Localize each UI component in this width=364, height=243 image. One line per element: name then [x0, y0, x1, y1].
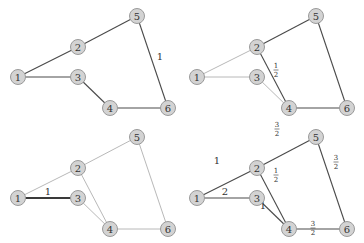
svg-text:6: 6: [344, 224, 350, 235]
svg-text:1: 1: [194, 193, 200, 204]
node-2: 2: [250, 161, 265, 176]
node-5: 5: [130, 9, 145, 24]
node-4: 4: [282, 101, 297, 116]
svg-text:6: 6: [165, 224, 171, 235]
edge-1-2: [18, 47, 78, 77]
edge-5-6: [137, 16, 168, 108]
edge-5-6: [316, 137, 347, 229]
svg-text:5: 5: [134, 11, 140, 22]
edge-2-5: [257, 137, 316, 168]
edge-weight-fraction: 12: [274, 62, 279, 79]
svg-text:4: 4: [286, 103, 292, 114]
node-3: 3: [71, 70, 86, 85]
svg-text:1: 1: [274, 62, 278, 70]
svg-text:2: 2: [334, 163, 338, 171]
edge-5-6: [316, 16, 347, 108]
node-3: 3: [250, 70, 265, 85]
svg-text:5: 5: [313, 11, 319, 22]
svg-text:4: 4: [107, 224, 113, 235]
svg-text:6: 6: [344, 103, 350, 114]
svg-text:3: 3: [311, 220, 315, 228]
edge-weight-fraction: 32: [311, 220, 316, 237]
edge-weight-label: 1: [45, 186, 51, 197]
svg-text:1: 1: [194, 72, 200, 83]
node-6: 6: [161, 101, 176, 116]
svg-text:3: 3: [75, 193, 81, 204]
edge-5-6: [137, 137, 168, 229]
edge-weight-fraction: 32: [334, 154, 339, 171]
svg-text:1: 1: [274, 167, 278, 175]
graph-figure: 112345612123456112345612132123232123456: [0, 0, 364, 243]
svg-text:3: 3: [334, 154, 338, 162]
node-5: 5: [309, 130, 324, 145]
svg-text:2: 2: [254, 42, 260, 53]
svg-text:1: 1: [15, 72, 21, 83]
svg-text:2: 2: [75, 163, 81, 174]
edge-weight-fraction: 32: [275, 121, 280, 138]
edge-weight-label: 1: [157, 51, 163, 62]
svg-text:3: 3: [275, 121, 279, 129]
panel-bottom-right: 12132123232123456: [190, 121, 355, 237]
node-5: 5: [309, 9, 324, 24]
svg-text:2: 2: [311, 229, 315, 237]
node-2: 2: [71, 40, 86, 55]
svg-text:2: 2: [275, 130, 279, 138]
node-5: 5: [130, 130, 145, 145]
node-6: 6: [340, 101, 355, 116]
node-1: 1: [190, 70, 205, 85]
panel-bottom-left: 1123456: [11, 130, 176, 237]
svg-text:4: 4: [286, 224, 292, 235]
svg-text:5: 5: [313, 132, 319, 143]
node-4: 4: [282, 222, 297, 237]
svg-text:2: 2: [254, 163, 260, 174]
edge-2-5: [78, 137, 137, 168]
svg-text:5: 5: [134, 132, 140, 143]
node-6: 6: [340, 222, 355, 237]
node-1: 1: [11, 191, 26, 206]
edge-weight-fraction: 12: [274, 167, 279, 184]
edge-2-5: [257, 16, 316, 47]
node-6: 6: [161, 222, 176, 237]
edge-weight-label: 1: [214, 155, 220, 166]
svg-text:2: 2: [274, 176, 278, 184]
svg-text:6: 6: [165, 103, 171, 114]
svg-text:2: 2: [274, 71, 278, 79]
svg-text:3: 3: [254, 193, 260, 204]
node-3: 3: [71, 191, 86, 206]
panel-top-left: 1123456: [11, 9, 176, 116]
node-3: 3: [250, 191, 265, 206]
svg-text:3: 3: [75, 72, 81, 83]
node-2: 2: [250, 40, 265, 55]
svg-text:4: 4: [107, 103, 113, 114]
edge-2-5: [78, 16, 137, 47]
edge-1-2: [197, 47, 257, 77]
edge-weight-label: 2: [222, 186, 228, 197]
svg-text:1: 1: [15, 193, 21, 204]
svg-text:3: 3: [254, 72, 260, 83]
node-1: 1: [190, 191, 205, 206]
node-4: 4: [103, 222, 118, 237]
node-1: 1: [11, 70, 26, 85]
node-2: 2: [71, 161, 86, 176]
panel-top-right: 12123456: [190, 9, 355, 116]
svg-text:2: 2: [75, 42, 81, 53]
node-4: 4: [103, 101, 118, 116]
